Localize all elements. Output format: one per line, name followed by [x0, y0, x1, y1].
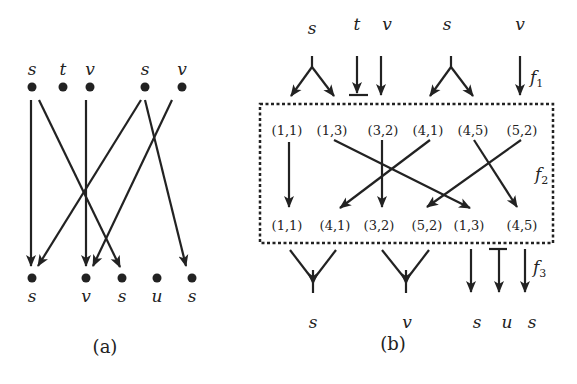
- b-top-label-4: s: [443, 14, 452, 34]
- b-bottom-label-5: s: [528, 312, 537, 332]
- b-bottom-pair-1: (1,1): [272, 218, 303, 233]
- b-top-label-3: v: [382, 14, 392, 34]
- a-top-node-2: [59, 83, 68, 92]
- a-top-node-1: [28, 83, 37, 92]
- a-edge-s1-s3: [39, 100, 120, 267]
- a-edge-s4-s1: [38, 100, 141, 266]
- b-top-pair-4: (4,1): [413, 123, 444, 138]
- f3-create-u: [489, 249, 507, 292]
- b-top-label-2: t: [354, 14, 361, 34]
- figure: s t v s v s v s u s (a) s t: [0, 0, 577, 384]
- b-top-pair-5: (4,5): [458, 123, 489, 138]
- caption-b: (b): [380, 333, 406, 354]
- b-bottom-pair-2: (4,1): [320, 218, 351, 233]
- f3-label: f3: [531, 257, 546, 280]
- b-bottom-pair-6: (4,5): [507, 218, 538, 233]
- a-top-node-4: [141, 83, 150, 92]
- a-top-label-2: t: [60, 59, 67, 79]
- panel-a: s t v s v s v s u s (a): [28, 59, 197, 357]
- f1-discard-t: [349, 56, 368, 95]
- f1-label: f1: [528, 67, 543, 90]
- b-top-label-1: s: [308, 18, 317, 38]
- b-bottom-pair-5: (1,3): [454, 218, 485, 233]
- b-bottom-label-4: u: [502, 312, 513, 332]
- b-bottom-label-3: s: [473, 312, 482, 332]
- b-bottom-label-2: v: [402, 312, 412, 332]
- a-bottom-label-2: v: [81, 286, 91, 306]
- a-bottom-label-3: s: [118, 286, 127, 306]
- f1-split-s: [291, 56, 334, 96]
- a-top-label-4: s: [141, 59, 150, 79]
- perm-52: [427, 140, 521, 207]
- a-top-node-5: [178, 83, 187, 92]
- a-bottom-node-4: [153, 274, 162, 283]
- b-top-pair-6: (5,2): [507, 123, 538, 138]
- b-bottom-pair-3: (3,2): [364, 218, 395, 233]
- a-top-node-3: [86, 83, 95, 92]
- a-top-label-1: s: [28, 59, 37, 79]
- a-top-label-5: v: [177, 59, 187, 79]
- b-top-pair-1: (1,1): [272, 123, 303, 138]
- f1-split-s2: [430, 56, 473, 96]
- f3-merge-v: [382, 250, 429, 293]
- f3-merge-s: [290, 250, 336, 293]
- caption-a: (a): [93, 336, 118, 357]
- b-top-label-5: v: [515, 14, 525, 34]
- a-bottom-label-1: s: [28, 286, 37, 306]
- a-bottom-node-2: [82, 274, 91, 283]
- a-edge-s4-s5: [145, 100, 186, 266]
- b-bottom-label-1: s: [309, 312, 318, 332]
- a-edge-v5-v: [93, 100, 172, 266]
- a-bottom-label-5: s: [188, 286, 197, 306]
- b-top-pair-3: (3,2): [368, 123, 399, 138]
- a-bottom-node-3: [118, 274, 127, 283]
- a-bottom-label-4: u: [152, 286, 163, 306]
- b-bottom-pair-4: (5,2): [412, 218, 443, 233]
- a-bottom-node-5: [188, 274, 197, 283]
- f2-label: f2: [533, 164, 548, 187]
- b-top-pair-2: (1,3): [317, 123, 348, 138]
- a-top-label-3: v: [85, 59, 95, 79]
- panel-b: s t v s v f1 (1,1) (1,3) (3,2) (4,1) (4,: [260, 14, 553, 354]
- perm-45: [474, 140, 517, 207]
- a-bottom-node-1: [28, 274, 37, 283]
